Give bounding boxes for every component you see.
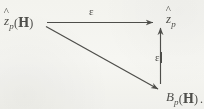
- node-target-top-subscript: p: [171, 19, 176, 29]
- edge-label-vertical: ε: [155, 52, 162, 63]
- epsilon-glyph: ε: [89, 5, 94, 17]
- node-source-argument: H: [18, 16, 29, 30]
- node-target-bottom-symbol: B: [166, 89, 174, 104]
- node-target-bottom-period: .: [198, 92, 203, 106]
- edge-diagonal-line: [46, 27, 158, 90]
- hat-accent-icon: ^: [4, 6, 9, 17]
- hat-accent-icon: ^: [166, 4, 171, 15]
- node-source: ^zp(H): [4, 12, 33, 28]
- node-target-bottom: Bp(H).: [166, 88, 203, 104]
- bar-mark-icon: [161, 52, 162, 63]
- node-target-bottom-argument: H: [183, 92, 194, 106]
- node-source-close-paren: ): [29, 16, 33, 30]
- node-target-top: ^zp: [166, 10, 176, 26]
- node-target-bottom-subscript: p: [174, 97, 179, 107]
- edge-label-horizontal: ε: [89, 6, 94, 17]
- diagram-canvas: ^zp(H) ^zp Bp(H). ε ε: [0, 0, 204, 109]
- epsilon-glyph: ε: [155, 51, 160, 63]
